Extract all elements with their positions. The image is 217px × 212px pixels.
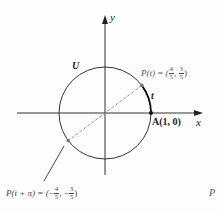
- x-axis-label: x: [196, 117, 201, 128]
- corner-glyph: P: [209, 188, 215, 198]
- point-a: [149, 111, 153, 115]
- arc-label: t: [151, 91, 154, 101]
- point-p-pi: [66, 139, 70, 143]
- y-axis-arrow-icon: [102, 15, 108, 24]
- point-a-label: A(1, 0): [152, 117, 181, 127]
- point-p: [140, 84, 144, 88]
- point-p-pi-label: P(t + π) = (−45, −35): [6, 186, 77, 201]
- point-p-label: P(t) = (45, 35): [141, 66, 187, 81]
- unit-circle-diagram: [0, 0, 217, 212]
- arc-t: [142, 85, 151, 113]
- circle-label: U: [72, 61, 79, 71]
- y-axis-label: y: [110, 12, 115, 23]
- leader-line: [44, 146, 64, 181]
